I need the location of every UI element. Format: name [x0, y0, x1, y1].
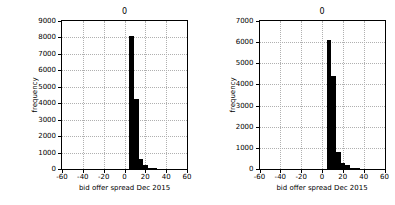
y-axis-tick: [256, 84, 260, 85]
y-axis-tick-label: 3000: [38, 116, 56, 123]
y-axis-tick: [256, 106, 260, 107]
y-axis-tick-label: 4000: [236, 81, 254, 88]
y-axis-tick: [58, 70, 62, 71]
x-axis-tick-label: 0: [320, 174, 324, 181]
y-axis-tick-label: 5000: [236, 60, 254, 67]
y-axis-tick: [58, 153, 62, 154]
chart-panel-left: 0 frequency bid offer spread Dec 2015 01…: [0, 0, 198, 205]
y-axis-tick-label: 1000: [236, 144, 254, 151]
x-axis-tick-label: 20: [141, 174, 150, 181]
plot-area-right: [260, 21, 385, 169]
y-axis-tick: [58, 54, 62, 55]
y-axis-tick-label: 2000: [38, 133, 56, 140]
gridline-vertical: [322, 21, 323, 169]
gridline-vertical: [104, 21, 105, 169]
x-axis-tick-label: -60: [254, 174, 265, 181]
y-axis-tick: [58, 87, 62, 88]
y-axis-tick-label: 2000: [236, 123, 254, 130]
gridline-vertical: [145, 21, 146, 169]
y-axis-tick: [256, 63, 260, 64]
y-axis-tick: [256, 127, 260, 128]
y-axis-tick-label: 5000: [38, 83, 56, 90]
x-axis-label-left: bid offer spread Dec 2015: [62, 185, 187, 192]
y-axis-tick-label: 7000: [236, 18, 254, 25]
plot-axes-right: 0 frequency bid offer spread Dec 2015 01…: [259, 20, 386, 170]
y-axis-tick: [58, 103, 62, 104]
y-axis-tick-label: 6000: [38, 67, 56, 74]
chart-title-left: 0: [62, 8, 187, 16]
y-axis-tick: [256, 42, 260, 43]
gridline-vertical: [301, 21, 302, 169]
plot-area-left: [62, 21, 187, 169]
gridline-vertical: [343, 21, 344, 169]
x-axis-tick-label: -60: [56, 174, 67, 181]
x-axis-tick-label: 60: [183, 174, 192, 181]
gridline-vertical: [83, 21, 84, 169]
x-axis-tick-label: 20: [338, 174, 347, 181]
y-axis-tick-label: 3000: [236, 102, 254, 109]
y-axis-tick-label: 0: [52, 166, 56, 173]
chart-title-right: 0: [260, 8, 385, 16]
y-axis-tick-label: 8000: [38, 34, 56, 41]
x-axis-tick-label: -20: [98, 174, 109, 181]
y-axis-tick: [256, 21, 260, 22]
gridline-vertical: [125, 21, 126, 169]
x-axis-label-right: bid offer spread Dec 2015: [260, 185, 385, 192]
y-axis-tick: [58, 120, 62, 121]
x-axis-tick-label: 0: [122, 174, 126, 181]
plot-axes-left: 0 frequency bid offer spread Dec 2015 01…: [61, 20, 188, 170]
x-axis-tick-label: -20: [295, 174, 306, 181]
y-axis-tick-label: 1000: [38, 149, 56, 156]
y-axis-tick-label: 7000: [38, 50, 56, 57]
x-axis-tick-label: -40: [77, 174, 88, 181]
y-axis-tick: [58, 136, 62, 137]
x-axis-tick-label: 40: [162, 174, 171, 181]
y-axis-tick-label: 4000: [38, 100, 56, 107]
gridline-vertical: [166, 21, 167, 169]
y-axis-tick: [58, 37, 62, 38]
chart-panel-right: 0 frequency bid offer spread Dec 2015 01…: [198, 0, 395, 205]
histogram-bar: [153, 168, 158, 169]
y-axis-tick-label: 9000: [38, 18, 56, 25]
gridline-vertical: [280, 21, 281, 169]
histogram-figure: 0 frequency bid offer spread Dec 2015 01…: [0, 0, 395, 205]
y-axis-tick: [58, 21, 62, 22]
y-axis-tick: [256, 148, 260, 149]
y-axis-tick-label: 6000: [236, 39, 254, 46]
x-axis-tick-label: -40: [275, 174, 286, 181]
y-axis-tick-label: 0: [249, 166, 253, 173]
x-axis-tick-label: 40: [359, 174, 368, 181]
histogram-bar: [355, 168, 360, 169]
x-axis-tick-label: 60: [380, 174, 389, 181]
gridline-vertical: [364, 21, 365, 169]
